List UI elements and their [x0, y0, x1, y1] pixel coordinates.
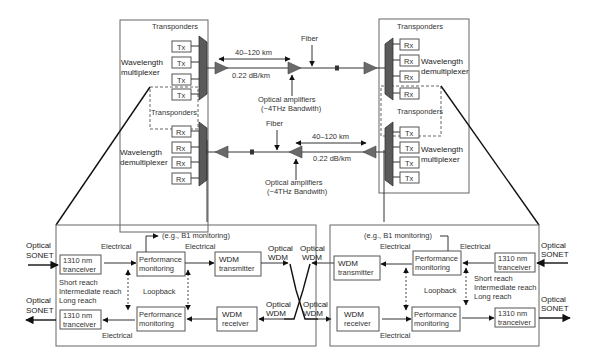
- upper-fiber-link: 40–120 km 0.22 dB/km Fiber Optical ampli…: [207, 34, 385, 113]
- upper-amplifier-label-1: Optical amplifiers: [258, 95, 316, 104]
- right-sonet-in-label: SONET: [541, 250, 569, 259]
- rx-unit: Rx: [176, 175, 185, 184]
- rx-unit: Rx: [176, 144, 185, 153]
- right-rx-units: Rx Rx Rx Rx: [393, 39, 419, 99]
- left-sonet-out-label-1: Optical: [26, 296, 51, 305]
- optical-amplifier-icon: [215, 146, 228, 158]
- left-mux-label-1: Wavelength: [121, 58, 163, 67]
- tx-unit: Tx: [177, 76, 186, 85]
- reach-label: Intermediate reach: [474, 283, 537, 292]
- tx-transceiver-label: 1310 nm: [63, 256, 92, 265]
- reach-label: Short reach: [59, 278, 98, 287]
- reach-label: Long reach: [59, 296, 97, 305]
- optical-wdm-label: Optical: [268, 244, 293, 253]
- left-demux-label-1: Wavelength: [120, 148, 162, 157]
- optical-wdm-label: WDM: [266, 309, 286, 318]
- tx-unit: Tx: [177, 59, 186, 68]
- left-sonet-in-label-2: SONET: [26, 251, 54, 260]
- lower-span-label: 40–120 km: [312, 132, 349, 141]
- wavelength-multiplexer-icon: [385, 122, 393, 186]
- right-sonet-out-label: SONET: [541, 304, 569, 313]
- left-demux-label-2: demultiplexer: [120, 158, 168, 167]
- left-mux-label-2: multiplexer: [121, 68, 160, 77]
- reach-label: Short reach: [474, 274, 513, 283]
- lower-fiber-label: Fiber: [266, 119, 284, 128]
- upper-loss-label: 0.22 dB/km: [232, 71, 270, 80]
- right-sonet-in-label: Optical: [541, 241, 566, 250]
- tx-transceiver-label: tranceiver: [498, 263, 531, 272]
- right-terminal: Transponders Wavelength demultiplexer Tr…: [379, 19, 469, 222]
- rx-transceiver-label: 1310 nm: [63, 311, 92, 320]
- rx-unit: Rx: [404, 73, 413, 82]
- tx-unit: Tx: [405, 159, 414, 168]
- monitor-note: (e.g., B1 monitoring): [364, 231, 432, 240]
- optical-amplifier-icon: [364, 62, 377, 74]
- rx-unit: Rx: [404, 90, 413, 99]
- wavelength-demultiplexer-icon: [385, 38, 393, 100]
- right-transponder-detail: WDM transmitter WDM receiver (e.g., B1 m…: [330, 225, 570, 346]
- tx-unit: Tx: [405, 129, 414, 138]
- upper-fiber-label: Fiber: [301, 34, 319, 43]
- perf-monitor-label: Performance: [415, 254, 458, 263]
- right-mux-label-1: Wavelength: [421, 145, 463, 154]
- wdm-transmitter-label: transmitter: [219, 264, 255, 273]
- optical-wdm-label: Optical: [303, 300, 328, 309]
- wdm-receiver-label: WDM: [222, 310, 242, 319]
- wdm-transmitter-label: WDM: [338, 259, 358, 268]
- lower-amplifier-label-1: Optical amplifiers: [265, 178, 323, 187]
- tx-transceiver-label: 1310 nm: [498, 254, 527, 263]
- electrical-label: Electrical: [185, 242, 216, 251]
- optical-wdm-label: WDM: [303, 309, 323, 318]
- left-terminal: Transponders Wavelength multiplexer Tran…: [120, 20, 208, 232]
- optical-wdm-label: Optical: [266, 300, 291, 309]
- right-upper-transponders-title: Transponders: [397, 22, 443, 31]
- tx-unit: Tx: [177, 91, 186, 100]
- tx-unit: Tx: [177, 43, 186, 52]
- right-sonet-out-label: Optical: [541, 295, 566, 304]
- left-sonet-in-label-1: Optical: [26, 241, 51, 250]
- electrical-label: Electrical: [380, 242, 411, 251]
- optical-amplifier-icon: [288, 62, 301, 74]
- perf-monitor-label: monitoring: [139, 319, 174, 328]
- right-tx-units: Tx Tx Tx Tx: [393, 127, 419, 183]
- electrical-label: Electrical: [380, 331, 411, 340]
- upper-amplifier-label-2: (~4THz Bandwith): [261, 104, 322, 113]
- wdm-transmitter-label: WDM: [219, 255, 239, 264]
- connector-icon: [250, 150, 254, 155]
- rx-unit: Rx: [404, 41, 413, 50]
- optical-wdm-label: WDM: [302, 253, 322, 262]
- optical-wdm-label: WDM: [268, 253, 288, 262]
- wdm-receiver-label: WDM: [344, 310, 364, 319]
- left-terminal-frame: [120, 20, 208, 232]
- rx-unit: Rx: [176, 159, 185, 168]
- right-demux-label-2: demultiplexer: [421, 67, 469, 76]
- wdm-receiver-label: receiver: [222, 319, 249, 328]
- lower-fiber-link: 40–120 km 0.22 dB/km Fiber Optical ampli…: [207, 119, 385, 196]
- reach-label: Long reach: [474, 292, 512, 301]
- optical-amplifier-icon: [289, 146, 302, 158]
- tx-unit: Tx: [405, 144, 414, 153]
- wavelength-demultiplexer-icon: [199, 122, 207, 186]
- wdm-network-diagram: Transponders Wavelength multiplexer Tran…: [0, 0, 592, 364]
- left-upper-transponders-title: Transponders: [152, 22, 198, 31]
- rx-transceiver-label: 1310 nm: [498, 309, 527, 318]
- wdm-transmitter-label: transmitter: [338, 268, 374, 277]
- lower-loss-label: 0.22 dB/km: [313, 154, 351, 163]
- upper-span-label: 40–120 km: [235, 48, 272, 57]
- right-lower-transponders-title: Transponders: [397, 107, 443, 116]
- perf-monitor-label: Performance: [139, 255, 182, 264]
- optical-amplifier-icon: [363, 146, 376, 158]
- lower-amplifier-label-2: (~4THz Bandwith): [267, 187, 328, 196]
- wdm-receiver-label: receiver: [344, 319, 371, 328]
- tx-unit: Tx: [405, 174, 414, 183]
- rx-transceiver-label: tranceiver: [63, 320, 96, 329]
- perf-monitor-label: monitoring: [415, 263, 450, 272]
- electrical-label: Electrical: [101, 242, 132, 251]
- right-demux-label-1: Wavelength: [421, 57, 463, 66]
- perf-monitor-label: monitoring: [139, 264, 174, 273]
- left-rx-units: Rx Rx Rx Rx: [172, 126, 199, 184]
- optical-wdm-label: Optical: [300, 244, 325, 253]
- reach-label: Intermediate reach: [59, 287, 122, 296]
- rx-unit: Rx: [404, 57, 413, 66]
- loopback-label: Loopback: [424, 286, 457, 295]
